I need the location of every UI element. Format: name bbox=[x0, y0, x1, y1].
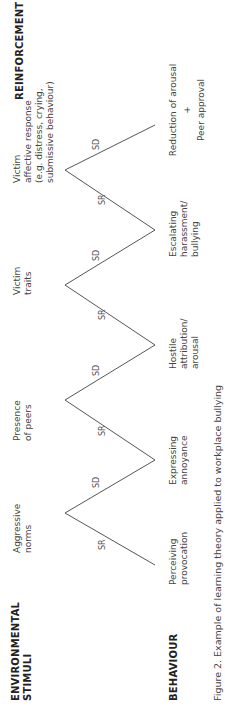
label-line: Perceiving bbox=[168, 532, 179, 585]
label-line: Presence bbox=[12, 400, 23, 441]
behaviour-expressing-annoyance: Expressing annoyance bbox=[168, 436, 190, 485]
label-line: Aggressive bbox=[12, 504, 23, 553]
label-line: bullying bbox=[190, 201, 201, 257]
label-line: arousal bbox=[190, 319, 201, 369]
label-line: (e.g. distress, crying, bbox=[34, 81, 45, 183]
stimulus-aggressive-norms: Aggressive norms bbox=[12, 504, 34, 553]
label-line: provocation bbox=[179, 532, 190, 585]
edge-label-sr: SR bbox=[98, 309, 107, 320]
label-line: annoyance bbox=[179, 436, 190, 485]
label-line: harassment/ bbox=[179, 201, 190, 257]
edge-label-sd: SD bbox=[92, 250, 101, 261]
edge-label-sd: SD bbox=[92, 139, 101, 150]
edge-label-sr: SR bbox=[98, 425, 107, 436]
edge-label-sd: SD bbox=[92, 477, 101, 488]
label-line: norms bbox=[23, 504, 34, 553]
label-line: attribution/ bbox=[179, 319, 190, 369]
label-line: submissive behaviour) bbox=[45, 81, 56, 183]
label-line: Escalating bbox=[168, 201, 179, 257]
stimulus-victim-affective-response: Victim affective response (e.g. distress… bbox=[12, 81, 56, 183]
stimulus-victim-traits: Victim traits bbox=[12, 267, 34, 295]
edge-label-sd: SD bbox=[92, 365, 101, 376]
behaviour-header: BEHAVIOUR bbox=[168, 634, 180, 701]
stimulus-presence-of-peers: Presence of peers bbox=[12, 400, 34, 441]
behaviour-perceiving-provocation: Perceiving provocation bbox=[168, 532, 190, 585]
reinforcement-reduction-arousal-peer-approval: Reduction of arousal + Peer approval bbox=[168, 60, 207, 160]
label-line: Peer approval bbox=[196, 60, 207, 160]
behaviour-escalating-harassment: Escalating harassment/ bullying bbox=[168, 201, 201, 257]
label-line: affective response bbox=[23, 81, 34, 183]
label-line: traits bbox=[23, 267, 34, 295]
header-line: ENVIRONMENTAL bbox=[10, 602, 22, 701]
label-line: + bbox=[182, 60, 193, 160]
label-line: Reduction of arousal bbox=[168, 60, 179, 160]
learning-theory-diagram: ENVIRONMENTAL STIMULI BEHAVIOUR REINFORC… bbox=[0, 0, 225, 713]
environmental-stimuli-header: ENVIRONMENTAL STIMULI bbox=[10, 602, 34, 701]
figure-caption: Figure 2. Example of learning theory app… bbox=[212, 385, 223, 701]
label-line: of peers bbox=[23, 400, 34, 441]
edge-label-sr: SR bbox=[98, 539, 107, 550]
header-line: STIMULI bbox=[22, 602, 34, 701]
label-line: Victim bbox=[12, 267, 23, 295]
label-line: Expressing bbox=[168, 436, 179, 485]
label-line: Hostile bbox=[168, 319, 179, 369]
behaviour-hostile-attribution: Hostile attribution/ arousal bbox=[168, 319, 201, 369]
edge-label-sr: SR bbox=[98, 194, 107, 205]
label-line: Victim bbox=[12, 81, 23, 183]
